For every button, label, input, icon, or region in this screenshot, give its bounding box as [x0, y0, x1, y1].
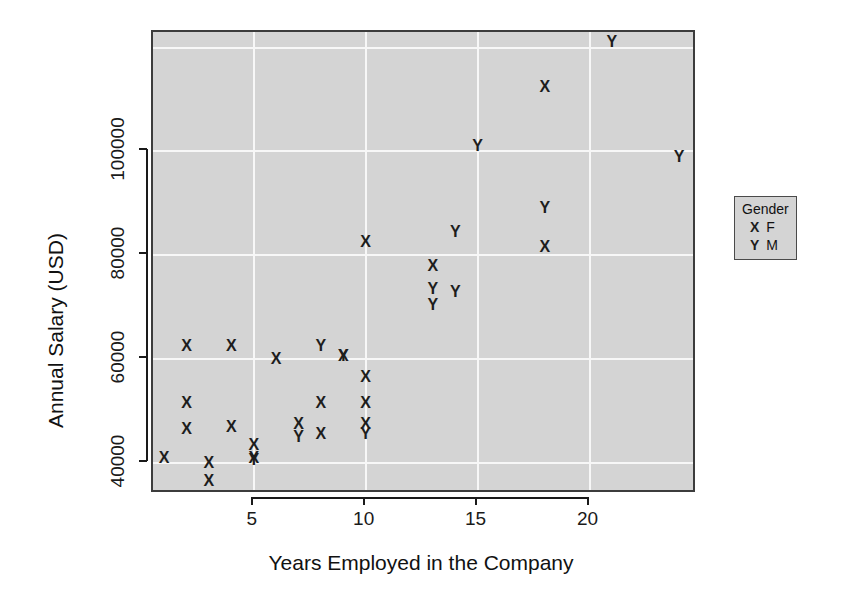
gridline-vertical [477, 32, 479, 490]
y-tick-mark [139, 148, 147, 150]
y-tick-label: 80000 [107, 227, 129, 280]
data-point-m: Y [450, 224, 461, 240]
data-point-f: X [360, 395, 371, 411]
data-point-f: X [360, 234, 371, 250]
scatter-plot-figure: XXXXXXXXXXXXXXXXXXXXXXYYYYYYYYYYYYY 4000… [0, 0, 842, 609]
data-point-m: Y [293, 429, 304, 445]
y-tick-label: 60000 [107, 331, 129, 384]
data-point-f: X [226, 338, 237, 354]
data-point-m: Y [427, 297, 438, 313]
y-tick-mark [139, 356, 147, 358]
legend-label: F [766, 219, 775, 235]
data-point-f: X [427, 258, 438, 274]
data-point-f: X [360, 369, 371, 385]
y-tick-mark [139, 252, 147, 254]
gridline-vertical [253, 32, 255, 490]
data-point-m: Y [360, 426, 371, 442]
data-point-m: Y [674, 149, 685, 165]
legend: Gender XFYM [734, 196, 797, 260]
data-point-f: X [159, 450, 170, 466]
data-point-f: X [204, 455, 215, 471]
legend-row: YM [742, 237, 789, 253]
x-axis-line [252, 497, 588, 499]
x-tick-mark [475, 497, 477, 505]
x-tick-mark [363, 497, 365, 505]
y-tick-label: 100000 [107, 118, 129, 181]
data-point-m: Y [450, 284, 461, 300]
data-point-f: X [539, 79, 550, 95]
data-point-f: X [181, 395, 192, 411]
legend-symbol: X [750, 219, 759, 235]
gridline-vertical [589, 32, 591, 490]
x-tick-mark [251, 497, 253, 505]
x-tick-label: 10 [353, 508, 374, 530]
y-axis-title: Annual Salary (USD) [44, 233, 68, 428]
data-point-f: X [226, 419, 237, 435]
gridline-horizontal [153, 358, 693, 360]
legend-symbol: Y [750, 237, 759, 253]
y-tick-label: 40000 [107, 434, 129, 487]
data-point-f: X [204, 473, 215, 489]
data-point-f: X [181, 421, 192, 437]
data-point-m: Y [472, 138, 483, 154]
data-point-m: Y [607, 34, 618, 50]
x-axis-title: Years Employed in the Company [0, 551, 842, 575]
data-point-m: Y [316, 338, 327, 354]
x-tick-label: 5 [246, 508, 257, 530]
data-point-m: Y [338, 348, 349, 364]
data-point-f: X [539, 239, 550, 255]
legend-title: Gender [742, 201, 789, 217]
x-tick-mark [587, 497, 589, 505]
legend-entries: XFYM [742, 219, 789, 253]
data-point-f: X [316, 426, 327, 442]
legend-label: M [766, 237, 778, 253]
x-tick-label: 15 [465, 508, 486, 530]
x-tick-label: 20 [577, 508, 598, 530]
y-axis-line [146, 149, 148, 460]
data-point-f: X [316, 395, 327, 411]
data-point-m: Y [248, 452, 259, 468]
plot-panel: XXXXXXXXXXXXXXXXXXXXXXYYYYYYYYYYYYY [151, 30, 695, 492]
data-point-f: X [271, 351, 282, 367]
y-tick-mark [139, 460, 147, 462]
data-point-m: Y [539, 200, 550, 216]
gridline-horizontal [153, 254, 693, 256]
gridline-horizontal [153, 150, 693, 152]
data-point-f: X [181, 338, 192, 354]
legend-row: XF [742, 219, 789, 235]
gridline-horizontal [153, 462, 693, 464]
